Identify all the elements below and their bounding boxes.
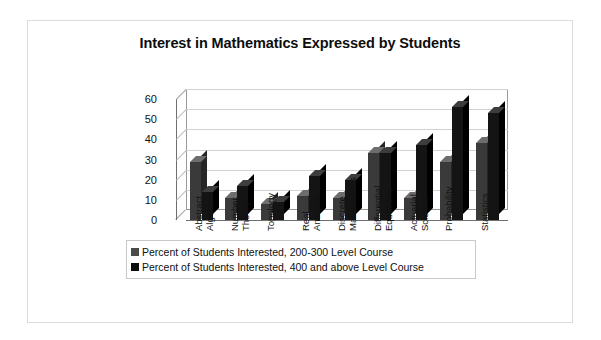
chart-title: Interest in Mathematics Expressed by Stu… <box>28 35 572 51</box>
y-axis-tick-label: 60 <box>117 93 157 105</box>
x-axis-label-line: Mathematics <box>348 159 359 231</box>
x-axis-label-line: Probability <box>444 159 455 231</box>
x-axis-label-line: Topology <box>266 159 277 231</box>
x-axis-label-line: Analysis <box>312 159 323 231</box>
y-axis-tick-label: 0 <box>117 214 157 226</box>
y-axis-tick-label: 30 <box>117 154 157 166</box>
y-axis-tick-label: 40 <box>117 133 157 145</box>
x-axis-label-line: Number <box>230 159 241 231</box>
x-axis-label: RealAnalysis <box>301 159 322 231</box>
legend-swatch-icon <box>131 263 139 271</box>
x-axis-label-line: Actuarial <box>409 159 420 231</box>
legend-item: Percent of Students Interested, 400 and … <box>131 259 471 274</box>
x-axis-label-line: Algebra <box>205 159 216 231</box>
bar-side <box>499 101 505 214</box>
legend-label: Percent of Students Interested, 400 and … <box>142 261 424 273</box>
y-axis-tick-label: 50 <box>117 113 157 125</box>
y-axis-tick-label: 20 <box>117 174 157 186</box>
x-axis-label-line: Statistics <box>480 159 491 231</box>
legend-label: Percent of Students Interested, 200-300 … <box>142 246 393 258</box>
legend-swatch-icon <box>131 248 139 256</box>
bar-side <box>463 95 469 214</box>
x-axis-label: AbstractAlgebra <box>194 159 215 231</box>
chart-figure: Interest in Mathematics Expressed by Stu… <box>27 20 573 323</box>
x-axis-label-line: Equations <box>383 159 394 231</box>
x-axis-label-line: Abstract <box>194 159 205 231</box>
x-axis-label-line: Science <box>419 159 430 231</box>
x-axis-label-line: Theory <box>240 159 251 231</box>
x-axis-label: Statistics <box>480 159 491 231</box>
x-axis-label: NumberTheory <box>230 159 251 231</box>
x-axis-label: DifferentialEquations <box>373 159 394 231</box>
x-axis-label: Probability <box>444 159 455 231</box>
bar-side <box>284 190 290 214</box>
x-axis-label: ActuarialScience <box>409 159 430 231</box>
y-axis-tick-label: 10 <box>117 194 157 206</box>
x-axis-label-line: Differential <box>373 159 384 231</box>
legend-item: Percent of Students Interested, 200-300 … <box>131 244 471 259</box>
x-axis-label: Topology <box>266 159 277 231</box>
x-axis-label: DiscreteMathematics <box>337 159 358 231</box>
chart-legend: Percent of Students Interested, 200-300 … <box>126 240 476 279</box>
